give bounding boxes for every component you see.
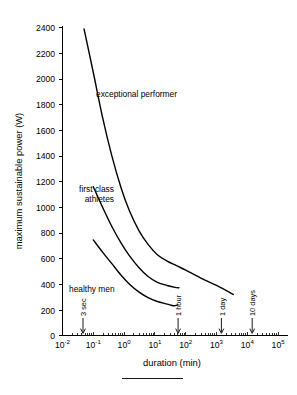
curve-label-first-class-athletes-line1: first class (79, 184, 114, 194)
y-tick-label: 1000 (36, 203, 55, 213)
y-tick-label: 1400 (36, 151, 55, 161)
chart-canvas: 2400 2200 2000 1800 1600 1400 1200 1000 … (0, 0, 297, 395)
curve-label-exceptional-performer: exceptional performer (96, 89, 177, 99)
y-tick-label: 200 (41, 306, 56, 316)
y-tick-label: 400 (41, 280, 56, 290)
annotation-label: 1 day (218, 298, 227, 316)
x-tick-label: 100 (118, 338, 132, 350)
y-tick-label: 2200 (36, 49, 55, 59)
x-tick-label: 10-1 (86, 338, 102, 350)
y-tick-label: 1800 (36, 100, 55, 110)
x-tick-label: 102 (179, 338, 193, 350)
curve-label-healthy-men: healthy men (69, 284, 115, 294)
curve-label-first-class-athletes-line2: athletes (85, 194, 114, 204)
annotation-label: 10 days (248, 290, 257, 316)
y-tick-label: 2400 (36, 23, 55, 33)
annotation-1-hour: 1 hour (174, 295, 183, 334)
y-tick-label: 800 (41, 228, 56, 238)
annotation-3-sec: 3 sec (79, 298, 88, 333)
y-tick-label: 1600 (36, 126, 55, 136)
y-tick-label: 1200 (36, 177, 55, 187)
curve-healthy-men (93, 240, 177, 306)
y-tick-label: 600 (41, 254, 56, 264)
x-axis-title: duration (min) (143, 357, 201, 368)
x-axis-minor-ticks (63, 332, 279, 336)
x-tick-label: 103 (210, 338, 224, 350)
figure-container: 2400 2200 2000 1800 1600 1400 1200 1000 … (0, 0, 297, 395)
y-tick-label: 2000 (36, 74, 55, 84)
y-tick-labels: 2400 2200 2000 1800 1600 1400 1200 1000 … (36, 23, 55, 341)
annotation-label: 3 sec (79, 298, 88, 316)
y-axis-title: maximum sustainable power (W) (13, 113, 24, 250)
x-tick-labels: 10-2 10-1 100 101 102 103 104 105 (55, 338, 285, 350)
x-tick-label: 104 (241, 338, 255, 350)
annotation-10-days: 10 days (248, 290, 257, 334)
annotation-1-day: 1 day (218, 298, 227, 334)
x-tick-label: 101 (148, 338, 162, 350)
x-tick-label: 105 (272, 338, 286, 350)
curve-exceptional-performer (84, 29, 233, 295)
x-tick-label: 10-2 (55, 338, 71, 350)
y-axis-ticks (59, 28, 63, 336)
